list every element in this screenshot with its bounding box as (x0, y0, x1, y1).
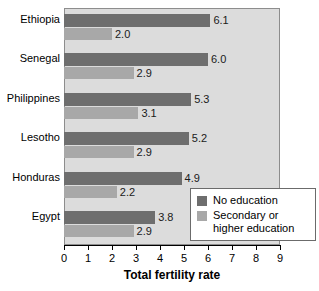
category-label-philippines: Philippines (2, 92, 60, 104)
category-label-lesotho: Lesotho (2, 131, 60, 143)
bar-value-secondary-education: 3.1 (141, 107, 156, 120)
legend-item-secondary-education: Secondary or higher education (197, 209, 311, 235)
bar-secondary-education (64, 146, 134, 158)
bar-value-no-education: 4.9 (185, 172, 200, 185)
legend-label-secondary-education: Secondary or higher education (213, 209, 294, 235)
legend-swatch-no-education (197, 196, 207, 206)
bar-value-secondary-education: 2.2 (120, 186, 135, 199)
bar-secondary-education (64, 225, 134, 237)
legend-label-secondary-line2: higher education (213, 222, 294, 234)
bar-value-no-education: 5.2 (192, 132, 207, 145)
x-tick-label: 9 (277, 252, 283, 264)
legend-item-no-education: No education (197, 194, 311, 207)
x-tick (64, 245, 65, 250)
bar-secondary-education (64, 186, 117, 198)
category-label-senegal: Senegal (2, 52, 60, 64)
x-tick (112, 245, 113, 250)
bar-no-education (64, 132, 189, 145)
bar-value-no-education: 5.3 (194, 93, 209, 106)
x-tick-label: 0 (61, 252, 67, 264)
x-tick-label: 8 (253, 252, 259, 264)
bar-secondary-education (64, 107, 138, 119)
x-tick (136, 245, 137, 250)
legend-label-secondary-line1: Secondary or (213, 209, 278, 221)
x-tick-label: 4 (157, 252, 163, 264)
bar-value-no-education: 6.1 (213, 14, 228, 27)
bar-value-no-education: 3.8 (158, 211, 173, 224)
category-label-honduras: Honduras (2, 171, 60, 183)
legend-swatch-secondary-education (197, 211, 207, 221)
bar-value-no-education: 6.0 (211, 53, 226, 66)
category-label-ethiopia: Ethiopia (2, 13, 60, 25)
x-tick (232, 245, 233, 250)
x-tick (88, 245, 89, 250)
bar-secondary-education (64, 67, 134, 79)
legend-label-no-education: No education (213, 194, 278, 207)
bar-value-secondary-education: 2.9 (137, 67, 152, 80)
x-tick-label: 2 (109, 252, 115, 264)
x-tick-label: 3 (133, 252, 139, 264)
category-label-egypt: Egypt (2, 210, 60, 222)
fertility-bar-chart: EthiopiaSenegalPhilippinesLesothoHondura… (0, 0, 319, 291)
x-tick (280, 245, 281, 250)
category-axis-labels: EthiopiaSenegalPhilippinesLesothoHondura… (0, 8, 60, 245)
bar-value-secondary-education: 2.0 (115, 28, 130, 41)
bar-no-education (64, 172, 182, 185)
x-axis-title: Total fertility rate (64, 268, 280, 282)
bar-value-secondary-education: 2.9 (137, 225, 152, 238)
x-tick-label: 5 (181, 252, 187, 264)
bar-no-education (64, 211, 155, 224)
x-tick (184, 245, 185, 250)
x-tick (208, 245, 209, 250)
x-tick-label: 7 (229, 252, 235, 264)
x-tick (160, 245, 161, 250)
x-tick-label: 6 (205, 252, 211, 264)
chart-legend: No education Secondary or higher educati… (190, 188, 316, 241)
x-tick (256, 245, 257, 250)
x-tick-label: 1 (85, 252, 91, 264)
bar-value-secondary-education: 2.9 (137, 146, 152, 159)
bar-no-education (64, 14, 210, 27)
bar-no-education (64, 93, 191, 106)
x-axis-line: 0123456789 (64, 245, 280, 246)
bar-secondary-education (64, 28, 112, 40)
bar-no-education (64, 53, 208, 66)
